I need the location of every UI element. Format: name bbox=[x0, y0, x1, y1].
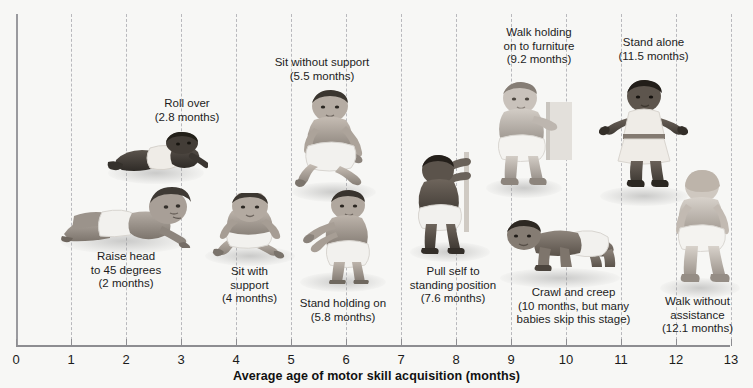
caption-walk-holding-furniture: Walk holding on to furniture (9.2 months… bbox=[484, 26, 594, 67]
x-tick-label-13: 13 bbox=[724, 352, 738, 367]
x-tick-label-0: 0 bbox=[12, 352, 19, 367]
gridline-1 bbox=[71, 14, 72, 345]
x-tick-6 bbox=[346, 339, 347, 346]
x-tick-12 bbox=[676, 339, 677, 346]
figure-crawl-and-creep bbox=[500, 215, 622, 277]
caption-line: babies skip this stage) bbox=[496, 313, 651, 327]
gridline-0 bbox=[16, 14, 18, 345]
x-tick-11 bbox=[621, 339, 622, 346]
caption-line: Raise head bbox=[66, 250, 186, 264]
caption-line: assistance bbox=[645, 309, 750, 323]
caption-line: Roll over bbox=[132, 97, 242, 111]
caption-line: support bbox=[202, 279, 297, 293]
figure-walk-without-assistance bbox=[660, 168, 744, 286]
caption-walk-without-assistance: Walk without assistance (12.1 months) bbox=[645, 295, 750, 336]
x-tick-label-7: 7 bbox=[397, 352, 404, 367]
x-tick-4 bbox=[236, 339, 237, 346]
caption-raise-head: Raise head to 45 degrees (2 months) bbox=[66, 250, 186, 291]
x-tick-label-12: 12 bbox=[669, 352, 683, 367]
caption-pull-self-to-standing: Pull self to standing position (7.6 mont… bbox=[398, 265, 508, 306]
caption-line: (10 months, but many bbox=[496, 300, 651, 314]
x-tick-8 bbox=[456, 339, 457, 346]
x-tick-label-5: 5 bbox=[287, 352, 294, 367]
x-tick-3 bbox=[181, 339, 182, 346]
x-tick-9 bbox=[511, 339, 512, 346]
x-tick-label-8: 8 bbox=[452, 352, 459, 367]
figure-walk-holding-furniture bbox=[486, 80, 572, 188]
x-tick-label-10: 10 bbox=[559, 352, 573, 367]
x-tick-5 bbox=[291, 339, 292, 346]
figure-sit-with-support bbox=[212, 193, 294, 259]
caption-line: (12.1 months) bbox=[645, 322, 750, 336]
caption-line: Crawl and creep bbox=[496, 286, 651, 300]
figure-stand-holding-on bbox=[302, 188, 386, 284]
caption-line: Walk holding bbox=[484, 26, 594, 40]
caption-line: to 45 degrees bbox=[66, 264, 186, 278]
caption-stand-alone: Stand alone (11.5 months) bbox=[596, 36, 711, 63]
x-tick-1 bbox=[71, 339, 72, 346]
caption-line: on to furniture bbox=[484, 40, 594, 54]
x-tick-label-1: 1 bbox=[67, 352, 74, 367]
caption-line: Stand alone bbox=[596, 36, 711, 50]
x-tick-label-2: 2 bbox=[122, 352, 129, 367]
caption-roll-over: Roll over (2.8 months) bbox=[132, 97, 242, 124]
caption-crawl-and-creep: Crawl and creep (10 months, but many bab… bbox=[496, 286, 651, 327]
caption-line: Stand holding on bbox=[288, 297, 398, 311]
caption-line: Sit with bbox=[202, 265, 297, 279]
caption-line: Pull self to bbox=[398, 265, 508, 279]
caption-sit-without-support: Sit without support (5.5 months) bbox=[262, 56, 382, 83]
figure-roll-over bbox=[106, 132, 208, 180]
figure-sit-without-support bbox=[294, 88, 374, 190]
caption-line: Sit without support bbox=[262, 56, 382, 70]
caption-line: (5.8 months) bbox=[288, 311, 398, 325]
caption-line: Walk without bbox=[645, 295, 750, 309]
caption-line: (4 months) bbox=[202, 292, 297, 306]
x-axis-title: Average age of motor skill acquisition (… bbox=[0, 369, 753, 383]
x-tick-label-3: 3 bbox=[177, 352, 184, 367]
x-tick-label-6: 6 bbox=[342, 352, 349, 367]
x-tick-2 bbox=[126, 339, 127, 346]
x-tick-7 bbox=[401, 339, 402, 346]
x-tick-10 bbox=[566, 339, 567, 346]
x-tick-label-9: 9 bbox=[507, 352, 514, 367]
x-tick-0 bbox=[16, 339, 17, 346]
caption-stand-holding-on: Stand holding on (5.8 months) bbox=[288, 297, 398, 324]
caption-line: (11.5 months) bbox=[596, 50, 711, 64]
caption-line: (2 months) bbox=[66, 277, 186, 291]
x-tick-label-4: 4 bbox=[232, 352, 239, 367]
caption-line: (7.6 months) bbox=[398, 292, 508, 306]
caption-line: (2.8 months) bbox=[132, 111, 242, 125]
x-tick-13 bbox=[731, 339, 732, 346]
figure-raise-head bbox=[58, 186, 192, 248]
caption-line: (5.5 months) bbox=[262, 70, 382, 84]
caption-sit-with-support: Sit with support (4 months) bbox=[202, 265, 297, 306]
figure-pull-self-to-standing bbox=[408, 152, 490, 256]
x-axis-line bbox=[16, 345, 730, 347]
caption-line: (9.2 months) bbox=[484, 53, 594, 67]
caption-line: standing position bbox=[398, 279, 508, 293]
x-tick-label-11: 11 bbox=[614, 352, 628, 367]
motor-milestones-chart: Raise head to 45 degrees (2 months) Roll… bbox=[0, 0, 753, 388]
